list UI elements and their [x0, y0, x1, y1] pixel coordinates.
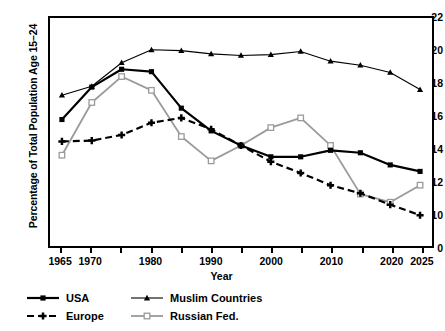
data-point-marker: [388, 162, 393, 167]
x-tick-mark: [211, 246, 213, 253]
series-russian-fed: [59, 74, 423, 205]
x-tick-mark: [331, 246, 333, 253]
x-tick-mark: [241, 246, 243, 253]
data-point-marker: [149, 88, 155, 94]
data-point-marker: [119, 74, 125, 80]
x-tick-mark: [422, 246, 424, 253]
data-point-marker: [297, 169, 304, 176]
x-tick-mark: [362, 246, 364, 253]
series-europe: [58, 114, 423, 218]
data-point-marker: [40, 295, 45, 300]
legend-label-russian-fed: Russian Fed.: [170, 310, 238, 322]
data-point-marker: [149, 69, 154, 74]
data-point-marker: [417, 182, 423, 188]
data-point-marker: [179, 106, 184, 111]
plot-canvas: [50, 18, 432, 246]
data-point-marker: [88, 137, 95, 144]
x-tick-label: 1990: [188, 255, 234, 267]
legend-marker-europe: [26, 310, 60, 322]
data-point-marker: [59, 117, 64, 122]
data-point-marker: [298, 115, 304, 121]
x-tick-label: 1970: [67, 255, 113, 267]
data-point-marker: [148, 119, 155, 126]
data-point-marker: [417, 86, 423, 92]
data-point-marker: [119, 67, 124, 72]
data-point-marker: [178, 114, 185, 121]
series-line: [62, 118, 420, 215]
x-tick-mark: [181, 246, 183, 253]
x-tick-mark: [90, 246, 92, 253]
data-point-marker: [298, 154, 303, 159]
x-tick-mark: [151, 246, 153, 253]
x-tick-mark: [120, 246, 122, 253]
data-point-marker: [358, 150, 363, 155]
legend-marker-muslim-countries: [130, 292, 164, 304]
x-tick-mark: [60, 246, 62, 253]
series-line: [62, 77, 420, 203]
x-tick-mark: [392, 246, 394, 253]
x-tick-label: 2010: [308, 255, 354, 267]
series-muslim-countries: [59, 47, 423, 98]
legend-marker-usa: [26, 292, 60, 304]
data-point-marker: [328, 143, 334, 149]
data-point-marker: [89, 85, 94, 90]
x-tick-label: 2025: [399, 255, 445, 267]
plot-area: [48, 16, 434, 248]
data-point-marker: [327, 182, 334, 189]
data-point-marker: [144, 313, 150, 319]
legend-item-russian-fed: Russian Fed.: [130, 310, 326, 322]
data-point-marker: [39, 312, 46, 319]
data-point-marker: [417, 169, 422, 174]
data-point-marker: [59, 152, 65, 158]
x-tick-mark: [301, 246, 303, 253]
x-tick-label: 1980: [128, 255, 174, 267]
legend-item-europe: Europe: [26, 310, 112, 322]
legend-label-usa: USA: [66, 292, 89, 304]
data-point-marker: [118, 131, 125, 138]
data-point-marker: [208, 158, 214, 164]
legend-item-usa: USA: [26, 292, 112, 304]
legend-label-europe: Europe: [66, 310, 104, 322]
data-point-marker: [89, 100, 95, 106]
x-tick-label: 2000: [248, 255, 294, 267]
legend-marker-russian-fed: [130, 310, 164, 322]
data-point-marker: [416, 212, 423, 219]
series-line: [62, 69, 420, 171]
legend-item-muslim-countries: Muslim Countries: [130, 292, 326, 304]
data-point-marker: [179, 134, 185, 140]
data-point-marker: [268, 125, 274, 131]
legend-label-muslim-countries: Muslim Countries: [170, 292, 262, 304]
x-axis-title: Year: [0, 270, 443, 282]
y-axis-title: Percentage of Total Population Age 15–24: [27, 1, 39, 251]
data-point-marker: [58, 138, 65, 145]
x-tick-mark: [271, 246, 273, 253]
data-point-marker: [328, 148, 333, 153]
chart-legend: USA Muslim Countries Europe Russian Fed.: [26, 289, 326, 325]
data-point-marker: [298, 48, 304, 54]
